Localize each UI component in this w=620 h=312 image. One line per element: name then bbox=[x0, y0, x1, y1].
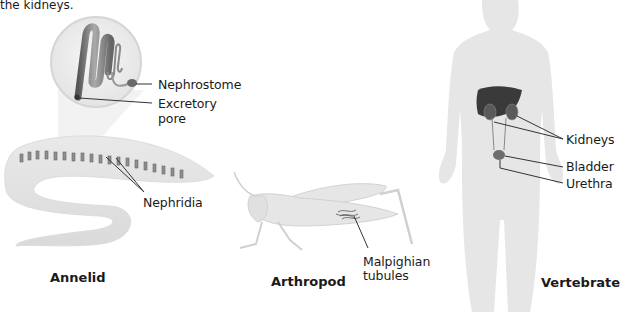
label-excretory-pore-line2: pore bbox=[158, 111, 186, 126]
label-nephrostome: Nephrostome bbox=[158, 77, 241, 92]
label-bladder: Bladder bbox=[566, 159, 614, 174]
label-excretory-pore-line1: Excretory bbox=[158, 96, 217, 111]
caption-vertebrate: Vertebrate bbox=[541, 275, 620, 290]
vertebrate-illustration bbox=[439, 0, 563, 312]
caption-annelid: Annelid bbox=[50, 270, 106, 285]
annelid-illustration bbox=[5, 17, 214, 246]
caption-arthropod: Arthropod bbox=[271, 274, 346, 289]
label-urethra: Urethra bbox=[566, 176, 613, 191]
label-nephridia: Nephridia bbox=[143, 195, 203, 210]
label-kidneys: Kidneys bbox=[566, 132, 614, 147]
label-malpighian-line2: tubules bbox=[363, 268, 409, 283]
label-malpighian-line1: Malpighian bbox=[363, 254, 430, 269]
arthropod-illustration bbox=[234, 172, 412, 250]
